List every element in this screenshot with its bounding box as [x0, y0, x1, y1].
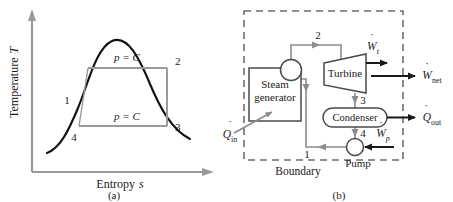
state-point-4-label-b: 4 [360, 127, 366, 139]
pump-work-dot: · [379, 116, 383, 128]
lower-isobar-label: p = C [113, 110, 140, 122]
panel-b-caption: (b) [333, 189, 346, 202]
steam-generator-label-line1: Steam [261, 78, 289, 90]
x-axis [32, 168, 214, 176]
net-work-dot: · [425, 57, 429, 69]
turbine: Turbine [324, 54, 366, 93]
panel-rankine-schematic: Boundary [225, 0, 453, 202]
panel-a-caption: (a) [108, 189, 121, 202]
panel-ts-diagram: TemperatureT Entropys [0, 0, 228, 202]
state-point-2-label-b: 2 [315, 29, 321, 41]
state-point-3-label-b: 3 [360, 94, 366, 106]
state-point-1-label: 1 [64, 94, 70, 106]
steam-generator-label-line2: generator [254, 91, 296, 103]
state-point-1-label-b: 1 [304, 148, 310, 160]
upper-isobar-label: p = C [113, 51, 140, 63]
y-axis [28, 9, 36, 172]
state-point-3-label: 3 [175, 121, 181, 133]
net-work-label: Wnet [422, 69, 442, 85]
state-point-4-label: 4 [71, 131, 77, 143]
turbine-work-dot: · [370, 28, 374, 40]
y-axis-label: TemperatureT [7, 46, 21, 118]
boundary-label: Boundary [275, 165, 321, 178]
turbine-label: Turbine [328, 67, 363, 79]
turbine-work-label: Wt [367, 40, 380, 56]
pump-label: Pump [345, 157, 371, 169]
steam-generator: Steam generator [249, 60, 302, 122]
heat-in-dot: · [228, 115, 232, 127]
y-axis-label-group: TemperatureT [7, 46, 21, 118]
heat-in-label: Qin [223, 128, 238, 144]
heat-out-label: Qout [423, 111, 442, 127]
x-axis-label-group: Entropys [96, 177, 144, 191]
figure-root: TemperatureT Entropys [0, 0, 453, 202]
pump: Pump [345, 139, 371, 170]
pump-work-label: Wp [376, 127, 390, 143]
x-axis-label: Entropys [96, 177, 144, 191]
condenser-label: Condenser [333, 112, 378, 123]
heat-out-dot: · [424, 99, 428, 111]
state-point-2-label: 2 [175, 55, 181, 67]
condenser: Condenser [323, 108, 387, 127]
